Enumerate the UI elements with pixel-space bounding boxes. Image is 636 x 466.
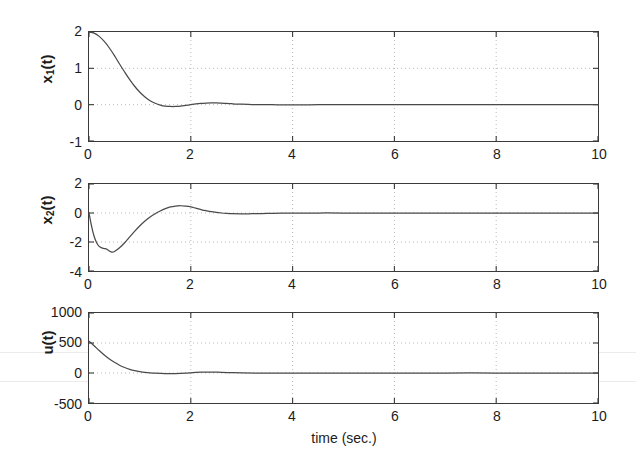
x-tick-x1-1: 2	[186, 146, 194, 162]
x-tick-u-2: 4	[288, 408, 296, 424]
plot-svg-x2	[89, 184, 598, 271]
y-tick-u-3: -500	[30, 396, 82, 412]
y-tick-x1-3: -1	[46, 134, 82, 150]
x-tick-x1-2: 4	[288, 146, 296, 162]
y-tick-x2-3: -4	[46, 264, 82, 280]
plot-svg-u	[89, 313, 598, 403]
x-tick-u-5: 10	[591, 408, 607, 424]
y-tick-u-2: 0	[30, 365, 82, 381]
y-tick-u-1: 500	[30, 334, 82, 350]
y-tick-x2-2: -2	[46, 234, 82, 250]
x-tick-x1-3: 6	[391, 146, 399, 162]
x-tick-x2-3: 6	[391, 276, 399, 292]
y-tick-x2-1: 0	[46, 205, 82, 221]
y-tick-x1-0: 2	[46, 23, 82, 39]
x-tick-x1-0: 0	[84, 146, 92, 162]
x-tick-x2-4: 8	[493, 276, 501, 292]
figure-canvas: x1(t) 2 1 0 -1 0 2 4 6 8 10 x2(t) 2 0 -2…	[0, 0, 636, 466]
x-tick-x2-0: 0	[84, 276, 92, 292]
plot-area-x1	[88, 31, 599, 142]
plot-svg-x1	[89, 32, 598, 141]
y-tick-x1-2: 0	[46, 97, 82, 113]
x-tick-x2-1: 2	[186, 276, 194, 292]
y-tick-x1-1: 1	[46, 60, 82, 76]
y-tick-u-0: 1000	[30, 304, 82, 320]
x-tick-u-4: 8	[493, 408, 501, 424]
plot-area-u	[88, 312, 599, 404]
x-tick-x1-5: 10	[591, 146, 607, 162]
x-tick-u-0: 0	[84, 408, 92, 424]
x-tick-x2-2: 4	[288, 276, 296, 292]
x-tick-u-3: 6	[391, 408, 399, 424]
x-tick-x1-4: 8	[493, 146, 501, 162]
x-tick-x2-5: 10	[591, 276, 607, 292]
y-tick-x2-0: 2	[46, 175, 82, 191]
x-axis-label: time (sec.)	[311, 430, 376, 446]
x-tick-u-1: 2	[186, 408, 194, 424]
plot-area-x2	[88, 183, 599, 272]
